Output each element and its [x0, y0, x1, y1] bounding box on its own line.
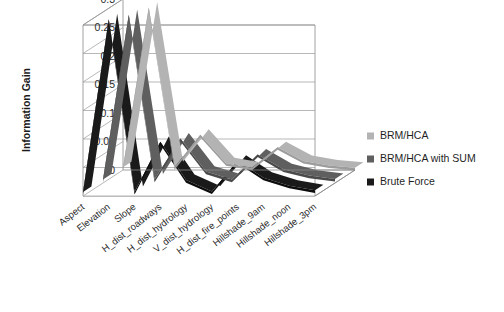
legend-swatch [367, 133, 374, 140]
legend: BRM/HCABRM/HCA with SUMBrute Force [367, 129, 476, 187]
legend-label: BRM/HCA with SUM [380, 152, 476, 164]
legend-swatch [367, 179, 374, 186]
y-axis-tick-label: 0.25 [95, 21, 116, 33]
legend-label: BRM/HCA [380, 129, 428, 141]
y-axis-tick-label: 0.3 [100, 0, 115, 5]
x-axis-labels: AspectElevationSlopeH_dist_roadwaysH_dis… [57, 201, 319, 257]
legend-label: Brute Force [380, 175, 435, 187]
information-gain-3d-line-chart: 00.050.10.150.20.250.3AspectElevationSlo… [0, 0, 504, 312]
legend-swatch [367, 156, 374, 163]
y-axis-title: Information Gain [20, 68, 32, 152]
chart-container: 00.050.10.150.20.250.3AspectElevationSlo… [0, 0, 504, 312]
